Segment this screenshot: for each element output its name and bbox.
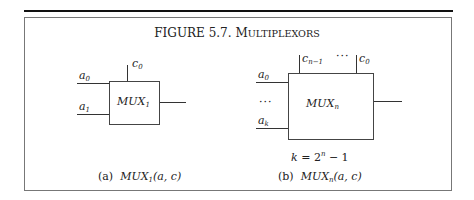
label-ak: ak [258,114,269,128]
label-c0: c0 [359,52,370,66]
caption-b: (b) MUXn(a, c) [278,170,362,184]
label-cn1: cn−1 [302,52,323,66]
control-line-c0 [127,65,128,81]
figure-caption-title: MULTIPLEXORS [235,28,319,39]
label-a1: a1 [79,100,90,114]
input-line-ak [256,128,288,129]
control-ellipsis: ··· [336,50,350,63]
figure-number: FIGURE 5.7. [154,26,231,40]
input-line-a0 [256,82,288,83]
muxn-label: MUXn [306,97,339,111]
caption-a: (a) MUX1(a, c) [98,170,181,184]
output-line [160,102,186,103]
output-line [374,101,402,102]
control-line-cn1 [299,55,300,73]
label-a0: a0 [258,68,269,82]
figure-title: FIGURE 5.7. MULTIPLEXORS [0,26,474,40]
control-line-c0 [356,55,357,73]
input-line-a0 [77,83,109,84]
input-line-a1 [77,114,109,115]
label-a0: a0 [79,69,90,83]
mux1-label: MUX1 [117,95,150,109]
label-c0: c0 [132,57,143,71]
top-rule [24,10,453,12]
input-ellipsis: ··· [259,96,273,109]
k-equation: k = 2n − 1 [291,150,349,164]
